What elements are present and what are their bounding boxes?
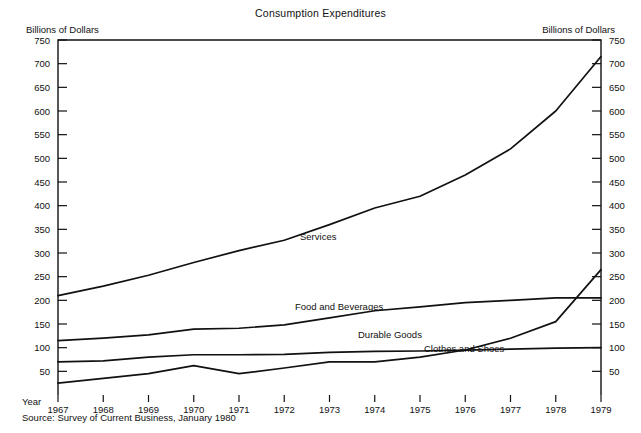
- y-tick-label-left: 450: [34, 177, 50, 188]
- y-tick-label-left: 150: [34, 319, 50, 330]
- x-tick-label: 1967: [47, 404, 68, 415]
- y-tick-label-left: 400: [34, 200, 50, 211]
- series-label-services: Services: [300, 231, 337, 242]
- chart-root: Consumption Expenditures Billions of Dol…: [0, 0, 641, 433]
- series-label-food-and-beverages: Food and Beverages: [295, 301, 383, 312]
- y-tick-label-right: 350: [609, 224, 625, 235]
- x-tick-label: 1975: [409, 404, 430, 415]
- y-tick-label-left: 600: [34, 106, 50, 117]
- y-tick-label-left: 100: [34, 342, 50, 353]
- plot-area: [58, 40, 601, 395]
- y-tick-label-right: 100: [609, 342, 625, 353]
- x-tick-label: 1978: [545, 404, 566, 415]
- x-tick-label: 1970: [183, 404, 204, 415]
- y-tick-label-right: 50: [609, 366, 620, 377]
- x-tick-label: 1971: [228, 404, 249, 415]
- y-tick-label-left: 700: [34, 58, 50, 69]
- x-tick-label: 1976: [455, 404, 476, 415]
- y-tick-label-left: 350: [34, 224, 50, 235]
- y-tick-label-left: 750: [34, 35, 50, 46]
- y-tick-label-right: 400: [609, 200, 625, 211]
- y-tick-label-left: 500: [34, 153, 50, 164]
- x-tick-label: 1969: [138, 404, 159, 415]
- y-tick-label-right: 150: [609, 319, 625, 330]
- x-tick-label: 1977: [500, 404, 521, 415]
- y-tick-label-left: 200: [34, 295, 50, 306]
- y-tick-label-left: 250: [34, 271, 50, 282]
- y-tick-label-right: 650: [609, 82, 625, 93]
- y-tick-label-right: 200: [609, 295, 625, 306]
- y-tick-label-right: 250: [609, 271, 625, 282]
- y-tick-label-left: 550: [34, 129, 50, 140]
- y-tick-label-left: 50: [39, 366, 50, 377]
- y-tick-label-right: 300: [609, 248, 625, 259]
- x-tick-label: 1979: [590, 404, 611, 415]
- y-tick-label-right: 600: [609, 106, 625, 117]
- series-label-clothes-and-shoes: Clothes and Shoes: [424, 343, 505, 354]
- x-tick-label: 1968: [93, 404, 114, 415]
- x-tick-label: 1973: [319, 404, 340, 415]
- y-tick-label-right: 750: [609, 35, 625, 46]
- x-axis-ticks: 1967196819691970197119721973197419751976…: [47, 395, 611, 415]
- y-tick-label-right: 550: [609, 129, 625, 140]
- y-tick-label-right: 450: [609, 177, 625, 188]
- x-tick-label: 1972: [274, 404, 295, 415]
- chart-svg: 5010015020025030035040045050055060065070…: [0, 0, 641, 433]
- y-tick-label-right: 700: [609, 58, 625, 69]
- series-label-durable-goods: Durable Goods: [358, 329, 422, 340]
- y-tick-label-left: 650: [34, 82, 50, 93]
- x-tick-label: 1974: [364, 404, 385, 415]
- y-tick-label-right: 500: [609, 153, 625, 164]
- y-tick-label-left: 300: [34, 248, 50, 259]
